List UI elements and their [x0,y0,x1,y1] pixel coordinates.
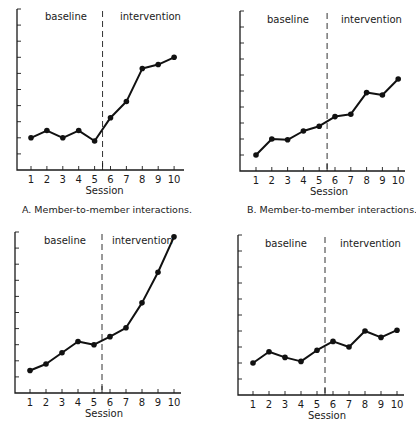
x-ticks: 12345678910 [253,167,405,186]
data-point [140,66,146,72]
data-point [362,328,368,334]
data-point [378,335,384,341]
x-tick-label: 3 [284,175,290,186]
x-tick-label: 5 [316,175,322,186]
data-point [171,234,177,240]
x-tick-label: 10 [391,399,404,410]
x-ticks: 12345678910 [250,391,404,410]
data-point [44,128,50,134]
x-axis-label: Session [308,410,346,421]
x-tick-label: 5 [314,399,320,410]
axes [17,9,184,170]
chart-panel-d: 12345678910baselineinterventionSession [238,235,404,421]
x-tick-label: 1 [253,175,259,186]
x-tick-label: 4 [298,399,304,410]
x-tick-label: 5 [91,397,97,408]
data-point [171,55,177,61]
x-tick-label: 8 [139,174,145,185]
data-point [250,360,256,366]
data-point [380,92,386,98]
data-point [155,62,161,68]
x-tick-label: 1 [28,174,34,185]
x-tick-label: 5 [91,174,97,185]
x-tick-label: 7 [348,175,354,186]
x-tick-label: 4 [75,397,81,408]
x-tick-label: 3 [60,174,66,185]
x-tick-label: 10 [168,397,181,408]
data-point [28,135,34,141]
axes [238,235,404,395]
data-point [43,361,49,367]
x-tick-label: 4 [76,174,82,185]
phase-label-intervention: intervention [341,14,402,25]
x-tick-label: 2 [44,174,50,185]
data-point [395,76,401,82]
x-axis-label: Session [85,185,123,196]
x-tick-label: 6 [107,174,113,185]
phase-label-baseline: baseline [267,14,309,25]
phase-label-baseline: baseline [265,238,307,249]
data-point [316,123,322,129]
x-tick-label: 1 [250,399,256,410]
data-point [266,349,272,355]
x-ticks: 12345678910 [28,166,181,185]
x-tick-label: 7 [123,397,129,408]
panel-caption: A. Member-to-member interactions. [22,204,192,215]
x-tick-label: 6 [330,399,336,410]
data-point [91,342,97,348]
data-point [364,90,370,96]
data-point [346,344,352,350]
x-tick-label: 8 [362,399,368,410]
phase-label-intervention: intervention [112,235,173,246]
data-point [75,339,81,345]
x-tick-label: 10 [392,175,405,186]
figure: 12345678910baselineinterventionSessionA.… [0,0,416,430]
axes [15,232,181,393]
phase-label-intervention: intervention [340,238,401,249]
x-tick-label: 2 [269,175,275,186]
phase-label-intervention: intervention [120,11,181,22]
data-point [330,339,336,345]
x-tick-label: 7 [346,399,352,410]
data-point [314,347,320,353]
chart-panel-c: 12345678910baselineinterventionSession [15,232,181,419]
x-tick-label: 8 [363,175,369,186]
data-point [108,115,114,121]
data-point [92,138,98,144]
x-axis-label: Session [310,186,348,197]
chart-panel-a: 12345678910baselineinterventionSessionA.… [17,9,192,215]
data-point [60,135,66,141]
x-tick-label: 3 [59,397,65,408]
data-point [269,136,275,142]
phase-label-baseline: baseline [44,235,86,246]
phase-label-baseline: baseline [45,11,87,22]
x-axis-label: Session [85,408,123,419]
chart-panel-b: 12345678910baselineinterventionSessionB.… [240,11,416,215]
data-point [27,368,33,374]
data-point [332,114,338,120]
x-tick-label: 6 [107,397,113,408]
x-ticks: 12345678910 [27,389,181,408]
data-point [107,334,113,340]
x-tick-label: 2 [43,397,49,408]
data-point [76,128,82,134]
x-tick-label: 7 [123,174,129,185]
data-point [155,269,161,275]
data-point [298,359,304,365]
x-tick-label: 10 [168,174,181,185]
data-point [123,325,129,331]
chart-grid: 12345678910baselineinterventionSessionA.… [0,0,416,430]
data-point [285,137,291,143]
x-tick-label: 1 [27,397,33,408]
x-tick-label: 2 [266,399,272,410]
x-tick-label: 9 [379,175,385,186]
x-tick-label: 3 [282,399,288,410]
data-point [124,99,130,105]
data-point [59,350,65,356]
data-line [31,57,174,141]
x-tick-label: 9 [378,399,384,410]
x-tick-label: 9 [155,397,161,408]
x-tick-label: 9 [155,174,161,185]
x-tick-label: 8 [139,397,145,408]
x-tick-label: 6 [332,175,338,186]
